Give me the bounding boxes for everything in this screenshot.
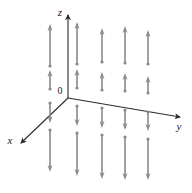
- axis-label-x: x: [7, 134, 13, 146]
- field-arrow: [146, 30, 151, 66]
- field-arrow: [75, 69, 80, 90]
- vector-field-canvas: zyx0: [0, 0, 192, 193]
- field-arrow: [123, 26, 128, 65]
- field-arrow: [48, 101, 53, 123]
- field-arrow: [48, 70, 53, 91]
- field-arrow: [146, 110, 151, 131]
- field-arrow: [146, 137, 151, 180]
- axis-labels-group: zyx0: [7, 6, 182, 146]
- field-arrow: [100, 133, 105, 179]
- field-arrow: [100, 28, 105, 64]
- field-arrow: [48, 128, 53, 172]
- origin-label: 0: [58, 85, 63, 96]
- axis-line-x: [21, 98, 68, 143]
- field-arrow: [75, 22, 80, 66]
- field-arrow: [146, 76, 151, 95]
- field-arrow: [75, 131, 80, 176]
- field-arrow: [123, 135, 128, 180]
- field-arrow: [100, 72, 105, 92]
- field-arrow: [123, 108, 128, 130]
- axis-line-y: [68, 98, 180, 117]
- field-arrow: [48, 24, 53, 68]
- axes-group: [21, 15, 180, 143]
- axis-label-z: z: [57, 6, 63, 18]
- field-arrow: [100, 106, 105, 128]
- field-arrow: [75, 104, 80, 126]
- vector-arrows-group: [48, 22, 151, 180]
- field-arrow: [123, 73, 128, 93]
- vector-field-figure: zyx0: [0, 0, 192, 193]
- axis-label-y: y: [176, 120, 182, 132]
